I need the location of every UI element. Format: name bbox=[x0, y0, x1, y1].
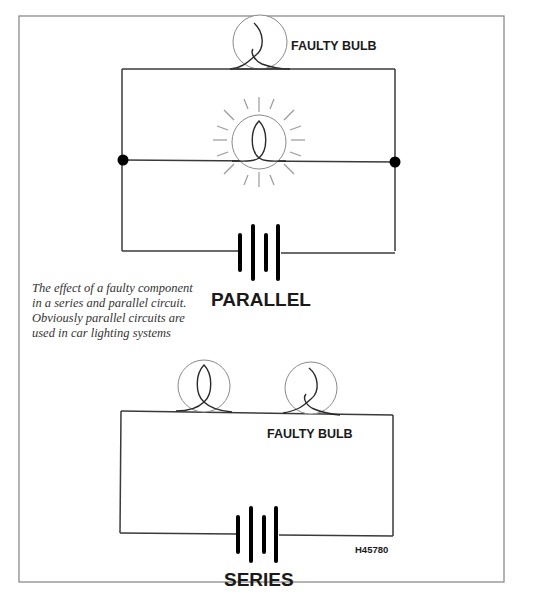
parallel-title: PARALLEL bbox=[211, 289, 311, 310]
battery-icon bbox=[238, 508, 276, 561]
junction-dot-right bbox=[390, 157, 401, 168]
series-left-wire bbox=[120, 411, 121, 533]
series-faulty-bulb-label: FAULTY BULB bbox=[267, 427, 353, 441]
figure-caption: The effect of a faulty component in a se… bbox=[32, 281, 202, 341]
series-bottom-wire-left bbox=[120, 533, 236, 534]
series-title: SERIES bbox=[224, 569, 294, 590]
battery-icon bbox=[240, 226, 278, 279]
faulty-bulb-icon bbox=[283, 362, 340, 415]
parallel-faulty-bulb-label: FAULTY BULB bbox=[291, 39, 377, 53]
junction-dot-left bbox=[118, 155, 129, 166]
bulb-icon bbox=[176, 360, 232, 412]
lit-bulb-icon bbox=[213, 97, 305, 187]
series-bottom-wire-right bbox=[279, 535, 393, 536]
series-top-wire bbox=[121, 411, 393, 415]
figure-reference-code: H45780 bbox=[355, 544, 388, 555]
faulty-bulb-icon bbox=[225, 15, 290, 69]
